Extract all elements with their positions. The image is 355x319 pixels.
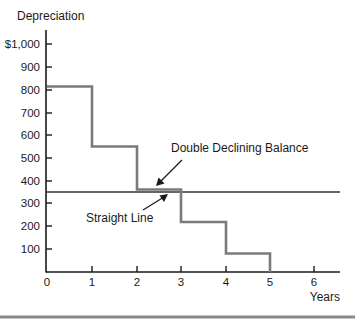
x-tick-label: 5 (267, 276, 273, 288)
straight-line-annotation-label: Straight Line (86, 211, 154, 225)
y-tick-label: 900 (21, 61, 40, 73)
x-tick-label: 4 (223, 276, 230, 288)
y-tick-label: 600 (21, 129, 40, 141)
straight-line-arrow-icon (143, 194, 168, 210)
y-tick-label: 400 (21, 175, 40, 187)
x-axis-label: Years (310, 290, 340, 304)
y-tick-label: 200 (21, 220, 40, 232)
x-tick-label: 2 (134, 276, 140, 288)
x-axis-ticks (92, 264, 314, 272)
y-axis-tick-labels: $1,000 900 800 700 600 500 400 300 200 1… (5, 38, 40, 255)
y-axis-ticks (46, 44, 52, 249)
y-tick-label: 100 (21, 243, 40, 255)
ddb-annotation-label: Double Declining Balance (171, 141, 309, 155)
y-tick-label: 800 (21, 84, 40, 96)
y-tick-label: 300 (21, 197, 40, 209)
y-tick-label: $1,000 (5, 38, 40, 50)
y-tick-label: 700 (21, 107, 40, 119)
x-tick-label: 1 (89, 276, 95, 288)
x-tick-label: 0 (44, 276, 50, 288)
x-axis-tick-labels: 0 1 2 3 4 5 6 (44, 276, 317, 288)
x-tick-label: 6 (311, 276, 317, 288)
bottom-rule (0, 316, 355, 319)
depreciation-chart: Depreciation $1,000 900 800 700 600 500 … (0, 0, 355, 319)
y-axis-label: Depreciation (17, 9, 84, 23)
x-tick-label: 3 (178, 276, 184, 288)
y-tick-label: 500 (21, 152, 40, 164)
ddb-arrow-icon (156, 160, 182, 186)
